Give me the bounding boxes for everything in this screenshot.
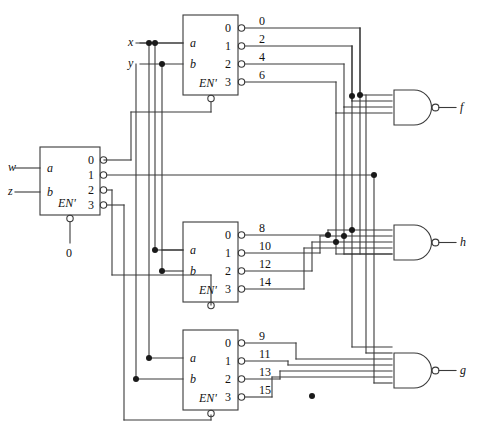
junction-bus-b xyxy=(357,92,363,98)
decoder-top-out2-bubble xyxy=(238,61,244,67)
decoder-left-out3-bubble xyxy=(100,202,106,208)
enable-constant-zero-label: 0 xyxy=(66,246,72,261)
junction-h-bus-4 xyxy=(333,239,339,245)
decoder-top-output-label-2: 4 xyxy=(259,50,265,65)
decoder-middle-out0-bubble xyxy=(238,232,244,238)
junction-bus-left-out1 xyxy=(371,172,377,178)
decoder-middle-index-1: 1 xyxy=(225,246,231,261)
nand-gate-h-bubble xyxy=(432,239,439,246)
decoder-left-out2-bubble xyxy=(100,187,106,193)
decoder-middle-output-label-3: 14 xyxy=(259,275,271,290)
nand-gate-f-body xyxy=(394,90,432,125)
decoder-bottom-out2-bubble xyxy=(238,376,244,382)
decoder-bottom-output-label-2: 13 xyxy=(259,365,271,380)
decoder-top-out1-bubble xyxy=(238,43,244,49)
decoder-middle-port-a: a xyxy=(190,243,196,258)
decoder-middle-index-3: 3 xyxy=(225,282,231,297)
decoder-middle-output-label-2: 12 xyxy=(259,257,271,272)
decoder-left-enable-label: EN' xyxy=(58,196,76,211)
junction-x-tap-1 xyxy=(152,40,158,46)
nand-gate-h-output-label: h xyxy=(460,235,466,250)
decoder-left-port-b: b xyxy=(47,185,53,200)
decoder-bottom-index-0: 0 xyxy=(225,336,231,351)
decoder-middle-output-label-1: 10 xyxy=(259,239,271,254)
decoder-bottom-output-label-1: 11 xyxy=(259,347,271,362)
decoder-top-index-1: 1 xyxy=(225,39,231,54)
junction-y-bot xyxy=(133,376,139,382)
decoder-bottom-port-b: b xyxy=(190,372,196,387)
decoder-middle-out1-bubble xyxy=(238,250,244,256)
junction-h-bus-2 xyxy=(341,233,347,239)
decoder-top-out3-bubble xyxy=(238,79,244,85)
decoder-middle-enable-label: EN' xyxy=(199,283,217,298)
decoder-top-output-label-1: 2 xyxy=(259,32,265,47)
junction-x-mid xyxy=(152,247,158,253)
decoder-top-out0-bubble xyxy=(238,25,244,31)
nand-gate-h-body xyxy=(394,225,432,260)
decoder-middle-index-2: 2 xyxy=(225,264,231,279)
decoder-bottom-out1-bubble xyxy=(238,358,244,364)
junction-dots xyxy=(133,40,377,399)
junction-x-bot xyxy=(146,355,152,361)
decoder-middle-output-label-0: 8 xyxy=(259,221,265,236)
junction-h-bus-1 xyxy=(325,232,331,238)
decoder-bottom-out3-bubble xyxy=(238,394,244,400)
decoder-top-output-label-0: 0 xyxy=(259,14,265,29)
decoder-bottom-port-a: a xyxy=(190,351,196,366)
decoder-bottom-index-2: 2 xyxy=(225,372,231,387)
decoder-bottom-output-label-3: 15 xyxy=(259,383,271,398)
decoder-left-out1-bubble xyxy=(100,172,106,178)
nand-gate-f-bubble xyxy=(432,104,439,111)
decoder-top-en-bubble xyxy=(208,95,214,101)
circuit-schematic-canvas xyxy=(0,0,479,443)
decoder-top-output-label-3: 6 xyxy=(259,68,265,83)
decoder-left-port-a: a xyxy=(47,161,53,176)
junction-g-bus-1 xyxy=(309,393,315,399)
junction-y-mid xyxy=(159,268,165,274)
decoder-top-index-0: 0 xyxy=(225,21,231,36)
decoder-left-index-2: 2 xyxy=(88,183,94,198)
decoder-middle-out3-bubble xyxy=(238,286,244,292)
decoder-middle-out2-bubble xyxy=(238,268,244,274)
decoder-bottom-out0-bubble xyxy=(238,340,244,346)
decoder-top-port-b: b xyxy=(190,57,196,72)
decoder-bottom-index-1: 1 xyxy=(225,354,231,369)
nand-gate-f-output-label: f xyxy=(460,100,463,115)
input-label-w: w xyxy=(8,160,16,175)
decoder-top-enable-label: EN' xyxy=(199,76,217,91)
decoder-left-index-1: 1 xyxy=(88,168,94,183)
input-label-y: y xyxy=(128,56,133,71)
decoder-top-index-2: 2 xyxy=(225,57,231,72)
nand-gate-g-body xyxy=(394,353,432,388)
circuit-diagram: w z x y a b EN' 0 1 2 3 0 2 4 6 a b EN' … xyxy=(0,0,479,443)
nand-gate-g-bubble xyxy=(432,367,439,374)
decoder-top-index-3: 3 xyxy=(225,75,231,90)
decoder-bottom-output-label-0: 9 xyxy=(259,329,265,344)
decoder-left-index-0: 0 xyxy=(88,153,94,168)
decoder-left-index-3: 3 xyxy=(88,198,94,213)
nand-gate-g-output-label: g xyxy=(460,363,466,378)
junction-x-tap-2 xyxy=(146,40,152,46)
input-label-z: z xyxy=(8,184,13,199)
junction-h-bus-3 xyxy=(349,227,355,233)
decoder-bottom-enable-label: EN' xyxy=(199,391,217,406)
decoder-bottom-index-3: 3 xyxy=(225,390,231,405)
input-label-x: x xyxy=(128,35,133,50)
decoder-middle-index-0: 0 xyxy=(225,228,231,243)
decoder-left-en-bubble xyxy=(67,215,73,221)
decoder-middle-port-b: b xyxy=(190,264,196,279)
decoder-top-port-a: a xyxy=(190,36,196,51)
junction-bus-a xyxy=(349,93,355,99)
junction-y-tap-1 xyxy=(159,61,165,67)
